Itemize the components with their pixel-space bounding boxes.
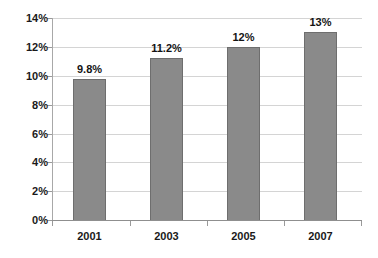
y-axis-label-6: 6%	[4, 129, 48, 140]
x-tickmark-2	[207, 221, 208, 226]
bar-value-label-2003: 11.2%	[141, 43, 192, 54]
bar-chart: 14% 12% 10% 8% 6% 4% 2% 0% 9.8% 11.2% 12…	[0, 0, 378, 258]
bar-2007[interactable]	[304, 32, 337, 221]
x-axis-label-2007: 2007	[295, 231, 346, 242]
y-axis-label-4: 4%	[4, 157, 48, 168]
bar-2001[interactable]	[73, 79, 106, 221]
y-axis-line	[52, 18, 53, 221]
y-axis-label-14: 14%	[4, 13, 48, 24]
bar-2005[interactable]	[227, 47, 260, 221]
x-tickmark-start	[52, 221, 53, 226]
y-axis-label-12: 12%	[4, 42, 48, 53]
bar-value-label-2005: 12%	[218, 32, 269, 43]
bar-value-label-2001: 9.8%	[64, 64, 115, 75]
y-axis-label-10: 10%	[4, 71, 48, 82]
y-axis-label-2: 2%	[4, 186, 48, 197]
y-axis-label-8: 8%	[4, 100, 48, 111]
x-axis-label-2003: 2003	[141, 231, 192, 242]
x-axis-label-2001: 2001	[64, 231, 115, 242]
bar-2003[interactable]	[150, 58, 183, 221]
bar-value-label-2007: 13%	[295, 17, 346, 28]
x-axis-label-2005: 2005	[218, 231, 269, 242]
x-tickmark-1	[130, 221, 131, 226]
y-axis-label-0: 0%	[4, 215, 48, 226]
x-tickmark-end	[361, 221, 362, 226]
x-tickmark-3	[284, 221, 285, 226]
